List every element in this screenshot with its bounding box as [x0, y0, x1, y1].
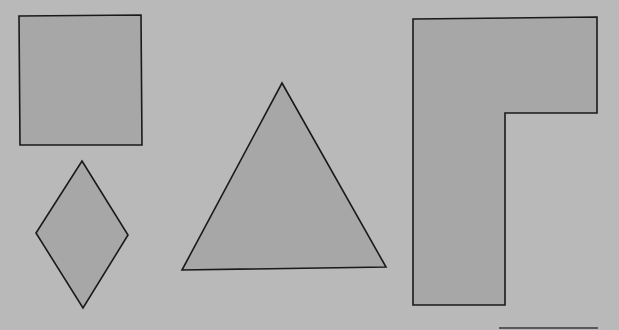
shapes-canvas	[0, 0, 619, 330]
square-shape	[19, 15, 142, 145]
